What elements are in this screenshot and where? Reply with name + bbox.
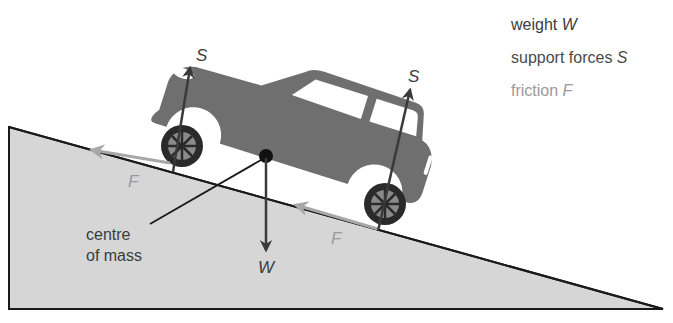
centre-of-mass-label-line1: centre <box>86 226 131 243</box>
legend-support-symbol: S <box>617 49 628 66</box>
legend: weight W support forces S friction F <box>511 8 628 107</box>
friction-label-front: F <box>331 229 343 248</box>
legend-weight-symbol: W <box>562 16 577 33</box>
rear-wheel <box>161 125 203 167</box>
force-diagram: S S F F W centre of mass weight W suppor… <box>0 0 673 323</box>
legend-weight-text: weight <box>511 16 562 33</box>
legend-item-support: support forces S <box>511 41 628 74</box>
friction-label-rear: F <box>128 172 140 191</box>
legend-item-friction: friction F <box>511 74 628 107</box>
legend-support-text: support forces <box>511 49 617 66</box>
support-label-front: S <box>408 67 420 86</box>
weight-label: W <box>258 258 276 277</box>
legend-friction-symbol: F <box>563 82 573 99</box>
legend-item-weight: weight W <box>511 8 628 41</box>
legend-friction-text: friction <box>511 82 563 99</box>
support-label-rear: S <box>196 46 208 65</box>
centre-of-mass-label-line2: of mass <box>86 247 142 264</box>
